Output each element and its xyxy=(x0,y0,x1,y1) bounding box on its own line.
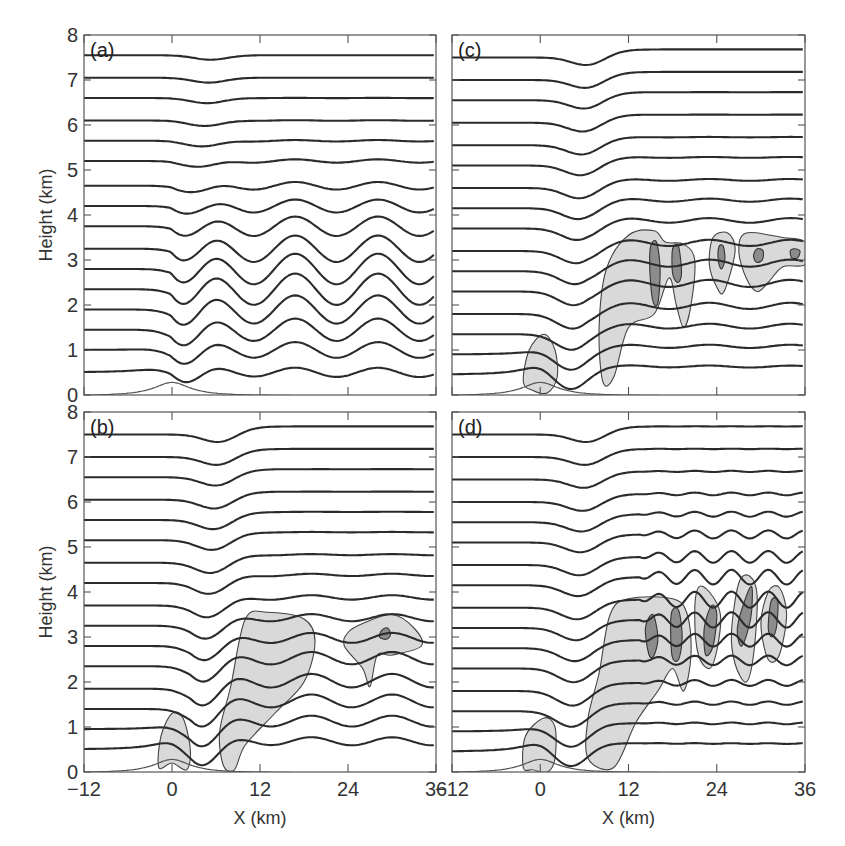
cloud-core xyxy=(790,249,800,259)
y-tick-label: 7 xyxy=(67,446,78,468)
streamline xyxy=(84,140,434,146)
panel-d: −120122436X (km)(d) xyxy=(435,412,816,828)
y-tick-label: 2 xyxy=(67,294,78,316)
y-tick-label: 5 xyxy=(67,536,78,558)
streamline xyxy=(84,426,434,442)
panel-b: 012345678Height (km)−120122436X (km)(b) xyxy=(36,401,447,828)
streamline xyxy=(452,365,803,389)
streamline xyxy=(84,120,434,126)
streamline xyxy=(84,182,434,192)
x-tick-label: −12 xyxy=(435,778,469,800)
x-tick-label: 24 xyxy=(337,778,359,800)
streamline xyxy=(452,426,803,442)
streamline xyxy=(84,512,434,529)
panel-c: (c) xyxy=(452,35,808,396)
streamline xyxy=(452,115,803,132)
panel-label: (c) xyxy=(458,39,481,61)
streamline xyxy=(84,78,434,83)
x-tick-label: 12 xyxy=(617,778,639,800)
streamline xyxy=(84,492,434,509)
y-tick-label: 8 xyxy=(67,24,78,46)
streamline xyxy=(452,49,803,65)
x-tick-label: 0 xyxy=(166,778,177,800)
streamline xyxy=(84,554,434,573)
y-tick-label: 6 xyxy=(67,114,78,136)
panel-a: 012345678Height (km)(a) xyxy=(36,24,436,406)
streamline xyxy=(84,737,434,765)
streamline xyxy=(452,551,803,575)
streamline xyxy=(452,493,803,511)
panel-label: (b) xyxy=(90,416,114,438)
streamline xyxy=(452,449,803,465)
x-axis-label: X (km) xyxy=(602,808,655,828)
panel-label: (a) xyxy=(90,39,114,61)
streamline xyxy=(452,199,803,220)
y-tick-label: 7 xyxy=(67,69,78,91)
x-tick-label: −12 xyxy=(67,778,101,800)
streamline xyxy=(452,157,803,175)
y-tick-label: 2 xyxy=(67,671,78,693)
cloud-region xyxy=(523,334,557,393)
streamline xyxy=(452,471,803,488)
streamline xyxy=(452,743,803,766)
streamline xyxy=(84,274,434,305)
y-tick-label: 5 xyxy=(67,159,78,181)
streamline xyxy=(84,236,434,263)
y-axis-label: Height (km) xyxy=(36,545,56,638)
streamline xyxy=(84,295,434,324)
streamline xyxy=(452,72,803,88)
panel-frame xyxy=(452,35,805,395)
y-tick-label: 6 xyxy=(67,491,78,513)
streamline xyxy=(452,137,803,155)
y-axis-label: Height (km) xyxy=(36,168,56,261)
x-axis-label: X (km) xyxy=(234,808,287,828)
x-tick-label: 24 xyxy=(706,778,728,800)
streamline xyxy=(452,179,803,198)
streamline xyxy=(452,512,803,532)
streamline xyxy=(84,342,434,364)
streamline xyxy=(84,574,434,594)
streamline xyxy=(84,254,434,285)
streamline xyxy=(84,449,434,465)
streamline xyxy=(84,532,434,550)
y-tick-label: 8 xyxy=(67,401,78,423)
y-tick-label: 4 xyxy=(67,204,78,226)
y-tick-label: 3 xyxy=(67,626,78,648)
streamline xyxy=(84,55,434,60)
streamline xyxy=(84,469,434,485)
y-tick-label: 4 xyxy=(67,581,78,603)
figure-canvas: 012345678Height (km)(a) 012345678Height … xyxy=(0,0,845,846)
streamline xyxy=(452,92,803,108)
cloud-core xyxy=(671,608,683,662)
x-tick-label: 12 xyxy=(249,778,271,800)
y-tick-label: 1 xyxy=(67,716,78,738)
streamline xyxy=(84,217,434,237)
x-tick-label: 36 xyxy=(794,778,816,800)
y-tick-label: 1 xyxy=(67,339,78,361)
streamline xyxy=(84,200,434,214)
streamline xyxy=(84,159,434,167)
y-tick-label: 3 xyxy=(67,249,78,271)
streamline xyxy=(84,368,434,382)
cloud-core xyxy=(718,245,725,269)
streamline xyxy=(452,530,803,552)
x-tick-label: 0 xyxy=(535,778,546,800)
streamline xyxy=(84,98,434,103)
panel-frame xyxy=(84,35,436,395)
cloud-core xyxy=(753,249,763,263)
panel-label: (d) xyxy=(458,416,482,438)
